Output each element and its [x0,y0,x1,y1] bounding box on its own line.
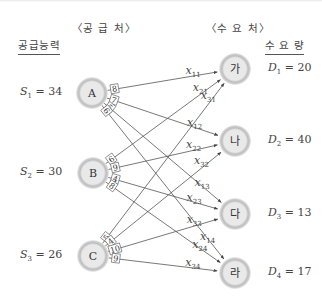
flow-variable-label: x11 [186,64,201,79]
svg-text:9: 9 [113,254,119,264]
cost-box: 9 [110,162,120,173]
demand-node-label: 다 [230,208,240,221]
supply-node-label: B [89,167,97,180]
cost-box: 9 [111,253,120,263]
demand-node-label: 가 [230,63,240,76]
flow-variable-label: x31 [201,89,216,104]
demand-node-label: 라 [230,267,240,280]
flow-variable-label: x23 [187,191,202,206]
demand-quantity-label: D4 = 17 [268,265,312,280]
flow-variable-label: x24 [192,238,207,253]
demand-quantity-label: D1 = 20 [268,61,312,76]
supply-capacity-label: S2 = 30 [20,165,62,180]
supply-node-label: C [89,250,97,263]
demand-node-label: 나 [230,135,240,148]
flow-variable-label: x32 [194,154,209,169]
demand-quantity-label: D2 = 40 [268,133,312,148]
flow-variable-label: x34 [185,256,200,271]
demand-quantity-label: D3 = 13 [268,206,312,221]
flow-variable-label: x12 [187,116,202,131]
cost-box: 8 [110,84,119,95]
flow-variable-label: x33 [187,213,202,228]
supply-capacity-label: S3 = 26 [20,248,62,263]
edge-C-34 [108,258,217,271]
flow-variable-label: x13 [194,176,209,191]
supply-capacity-label: S1 = 34 [20,85,62,100]
flow-variable-label: x22 [186,138,201,153]
supply-node-label: A [87,87,97,100]
